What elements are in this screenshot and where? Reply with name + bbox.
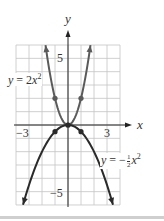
tick-label-neg3: −3 — [16, 127, 29, 139]
eq1-mid: = 2 — [13, 73, 32, 87]
tick-label-3: 3 — [104, 127, 110, 139]
tick-label-5: 5 — [57, 52, 63, 64]
equation-label-2x2: y = 2x2 — [7, 73, 42, 86]
eq1-exp: 2 — [37, 72, 41, 81]
y-axis-label: y — [65, 12, 71, 25]
tick-label-neg5: −5 — [50, 187, 63, 199]
bottom-divider — [0, 216, 164, 219]
x-axis-label: x — [137, 118, 143, 131]
eq2-fraction: 12 — [127, 154, 131, 169]
axes — [14, 30, 132, 207]
eq2-mid: = − — [106, 153, 126, 167]
graph-canvas — [0, 0, 164, 221]
equation-label-neg-half-x2: y = −12x2 — [100, 153, 142, 169]
eq2-exp: 2 — [137, 152, 141, 161]
